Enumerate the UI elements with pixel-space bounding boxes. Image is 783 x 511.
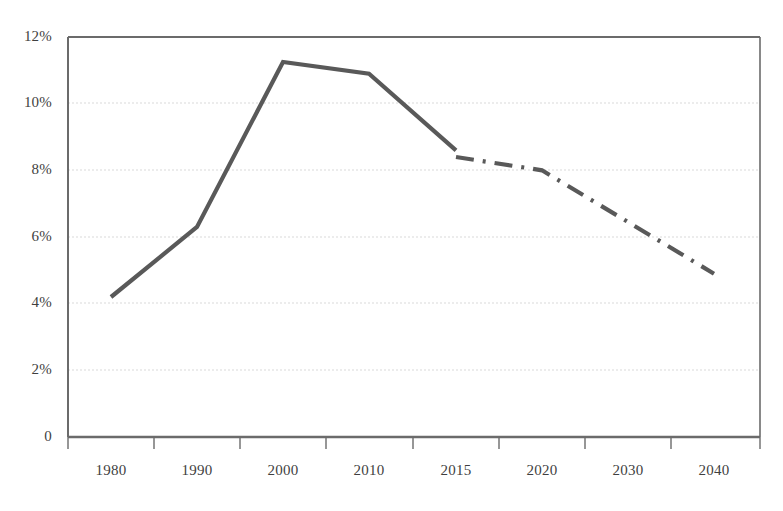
y-tick-label-4: 4%	[0, 294, 52, 311]
y-tick-label-12: 12%	[0, 28, 52, 45]
x-tick-label-2015: 2015	[413, 462, 499, 479]
x-tick-label-2000: 2000	[240, 462, 326, 479]
y-tick-label-0: 0	[0, 428, 52, 445]
x-tick-label-2040: 2040	[671, 462, 757, 479]
x-tick-label-2020: 2020	[499, 462, 585, 479]
series-projection-line	[456, 157, 714, 274]
y-tick-label-8: 8%	[0, 161, 52, 178]
line-chart: 12% 10% 8% 6% 4% 2% 0 1980 1990 2000 201…	[0, 0, 783, 511]
x-tick-label-1990: 1990	[154, 462, 240, 479]
x-axis-ticks	[68, 437, 760, 449]
x-tick-label-2010: 2010	[326, 462, 412, 479]
x-tick-label-2030: 2030	[585, 462, 671, 479]
y-tick-label-6: 6%	[0, 228, 52, 245]
y-tick-label-2: 2%	[0, 361, 52, 378]
y-tick-label-10: 10%	[0, 94, 52, 111]
series-historical-line	[111, 62, 456, 297]
x-tick-label-1980: 1980	[68, 462, 154, 479]
chart-canvas	[0, 0, 783, 511]
gridlines	[68, 103, 760, 370]
